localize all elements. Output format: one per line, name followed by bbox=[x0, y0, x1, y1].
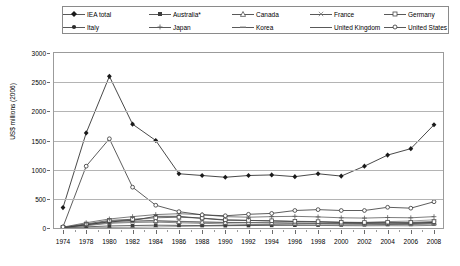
data-point-square-open bbox=[339, 220, 343, 224]
x-tick-mark-minor bbox=[214, 230, 215, 232]
data-point-circle-open bbox=[247, 212, 251, 216]
data-point-diamond-filled bbox=[130, 122, 135, 127]
data-point-square-open bbox=[409, 221, 413, 225]
data-point-plus bbox=[408, 215, 413, 220]
y-tick-label: 2000 bbox=[32, 108, 46, 115]
x-tick-mark-minor bbox=[399, 230, 400, 232]
x-tick-mark bbox=[295, 230, 296, 234]
legend-item-canada[interactable]: Canada bbox=[232, 10, 310, 19]
data-point-square-open bbox=[293, 219, 297, 223]
x-tick-mark-minor bbox=[330, 230, 331, 232]
data-point-diamond-filled bbox=[223, 175, 228, 180]
data-point-circle-open bbox=[409, 206, 413, 210]
x-tick-mark-minor bbox=[144, 230, 145, 232]
data-point-diamond-filled bbox=[246, 173, 251, 178]
gridline bbox=[54, 141, 443, 142]
x-tick-label: 1986 bbox=[172, 238, 186, 246]
x-tick-mark-minor bbox=[283, 230, 284, 232]
data-point-circle-open bbox=[223, 214, 227, 218]
y-tick-label: 500 bbox=[35, 195, 46, 202]
legend-item-italy[interactable]: Italy bbox=[63, 23, 149, 32]
data-point-plus bbox=[362, 216, 367, 221]
data-point-plus bbox=[316, 215, 321, 220]
x-tick-label: 2004 bbox=[380, 238, 394, 246]
data-point-square-open bbox=[363, 221, 367, 225]
data-point-circle-open bbox=[432, 200, 436, 204]
legend-label: Australia* bbox=[173, 11, 203, 19]
y-axis: 050010001500200025003000 bbox=[12, 52, 50, 229]
x-tick-mark bbox=[411, 230, 412, 234]
legend-item-france[interactable]: France bbox=[310, 10, 384, 19]
x-tick-mark-minor bbox=[353, 230, 354, 232]
x-tick-mark bbox=[272, 230, 273, 234]
legend-item-japan[interactable]: Japan bbox=[149, 23, 232, 32]
legend-label: United Kingdom bbox=[334, 24, 382, 32]
y-tick-label: 0 bbox=[42, 225, 46, 232]
x-tick-mark-minor bbox=[376, 230, 377, 232]
plot-area bbox=[53, 52, 444, 229]
y-tick-label: 1000 bbox=[32, 166, 46, 173]
data-point-circle-open bbox=[200, 213, 204, 217]
data-point-square-open bbox=[432, 220, 436, 224]
legend-marker-line-icon bbox=[310, 23, 332, 32]
data-point-circle-open bbox=[270, 212, 274, 216]
x-tick-label: 1982 bbox=[125, 238, 139, 246]
x-tick-mark bbox=[388, 230, 389, 234]
data-point-circle-open bbox=[131, 185, 135, 189]
legend-item-united-kingdom[interactable]: United Kingdom bbox=[310, 23, 384, 32]
chart-legend: IEA total Australia* Canada France Germa… bbox=[62, 6, 449, 34]
legend-label: IEA total bbox=[87, 11, 113, 19]
legend-item-korea[interactable]: Korea bbox=[232, 23, 310, 32]
data-point-diamond-filled bbox=[339, 173, 344, 178]
y-tick-mark bbox=[47, 228, 50, 229]
legend-label: Japan bbox=[173, 24, 193, 32]
x-tick-mark bbox=[202, 230, 203, 234]
data-point-diamond-filled bbox=[200, 173, 205, 178]
x-tick-label: 1988 bbox=[195, 238, 209, 246]
data-point-circle-open bbox=[154, 203, 158, 207]
x-tick-mark bbox=[434, 230, 435, 234]
data-point-diamond-filled bbox=[316, 171, 321, 176]
data-point-square-filled bbox=[154, 223, 158, 227]
data-point-square-open bbox=[270, 219, 274, 223]
x-tick-label: 1996 bbox=[288, 238, 302, 246]
legend-marker-square-filled-icon bbox=[149, 10, 171, 19]
data-point-square-filled bbox=[131, 224, 135, 228]
x-tick-mark bbox=[318, 230, 319, 234]
y-tick-label: 2500 bbox=[32, 79, 46, 86]
series-iea-total bbox=[61, 74, 437, 210]
legend-marker-diamond-filled-icon bbox=[63, 10, 85, 19]
legend-item-germany[interactable]: Germany bbox=[384, 10, 448, 19]
y-tick-mark bbox=[47, 111, 50, 112]
y-tick-label: 1500 bbox=[32, 137, 46, 144]
legend-row-1: IEA total Australia* Canada France Germa… bbox=[63, 8, 448, 21]
data-point-circle-open bbox=[177, 210, 181, 214]
data-point-circle-open bbox=[61, 225, 65, 228]
x-tick-mark bbox=[109, 230, 110, 234]
data-point-circle-open bbox=[84, 164, 88, 168]
x-tick-label: 1998 bbox=[311, 238, 325, 246]
x-tick-mark bbox=[341, 230, 342, 234]
y-tick-mark bbox=[47, 53, 50, 54]
legend-item-australia[interactable]: Australia* bbox=[149, 10, 232, 19]
x-tick-mark bbox=[225, 230, 226, 234]
data-point-plus bbox=[292, 214, 297, 219]
energy-rd-line-chart: IEA total Australia* Canada France Germa… bbox=[0, 0, 460, 266]
x-tick-mark bbox=[133, 230, 134, 234]
x-axis: 1974197819801982198419861988199019921994… bbox=[53, 230, 444, 252]
data-point-diamond-filled bbox=[107, 74, 112, 79]
legend-item-iea-total[interactable]: IEA total bbox=[63, 10, 149, 19]
x-tick-label: 1978 bbox=[79, 238, 93, 246]
legend-label: Korea bbox=[256, 24, 275, 32]
x-tick-mark-minor bbox=[422, 230, 423, 232]
data-point-diamond-filled bbox=[269, 172, 274, 177]
legend-marker-circle-filled-icon bbox=[63, 23, 85, 32]
legend-item-united-states[interactable]: United States bbox=[384, 23, 448, 32]
data-point-diamond-filled bbox=[385, 152, 390, 157]
legend-marker-plus-icon bbox=[149, 23, 171, 32]
data-point-plus bbox=[432, 214, 437, 219]
x-tick-mark-minor bbox=[306, 230, 307, 232]
x-tick-label: 2006 bbox=[404, 238, 418, 246]
legend-label: Canada bbox=[256, 11, 281, 19]
data-point-circle-open bbox=[363, 209, 367, 213]
